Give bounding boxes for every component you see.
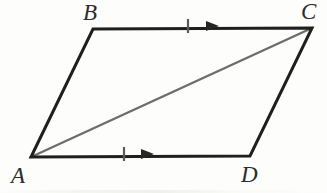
vertex-label-b: B (83, 1, 97, 24)
vertex-label-d: D (241, 163, 258, 186)
vertex-label-c: C (301, 0, 316, 23)
vertex-label-a: A (11, 164, 25, 187)
diagonal-AC (31, 28, 312, 157)
geometry-figure: A B C D (0, 0, 327, 193)
parallelogram-diagram (0, 0, 327, 193)
